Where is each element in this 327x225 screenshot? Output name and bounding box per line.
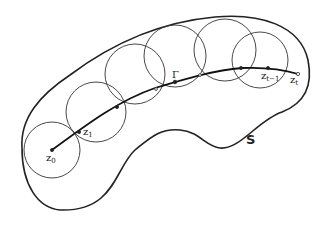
point-b [155,88,158,91]
label-gamma: Γ [172,69,179,80]
circle-3 [105,44,165,104]
point-gamma [173,80,177,84]
point-z1 [77,130,80,133]
label-zt: zt [290,74,298,87]
label-zt-minus-1: zt−1 [261,70,279,83]
circle-6 [232,32,288,88]
label-region-s: S [246,132,255,147]
label-z0: z0 [46,152,56,165]
circle-5 [194,19,256,81]
point-a [115,105,118,108]
region-s-outline [22,16,310,210]
covering-circles [24,19,288,178]
label-z1: z1 [83,126,93,139]
point-zt-1 [266,66,269,69]
point-zt [296,72,299,75]
point-d [239,66,242,69]
point-c [199,74,202,77]
covering-diagram: z0 z1 Γ zt−1 zt S [0,0,327,225]
